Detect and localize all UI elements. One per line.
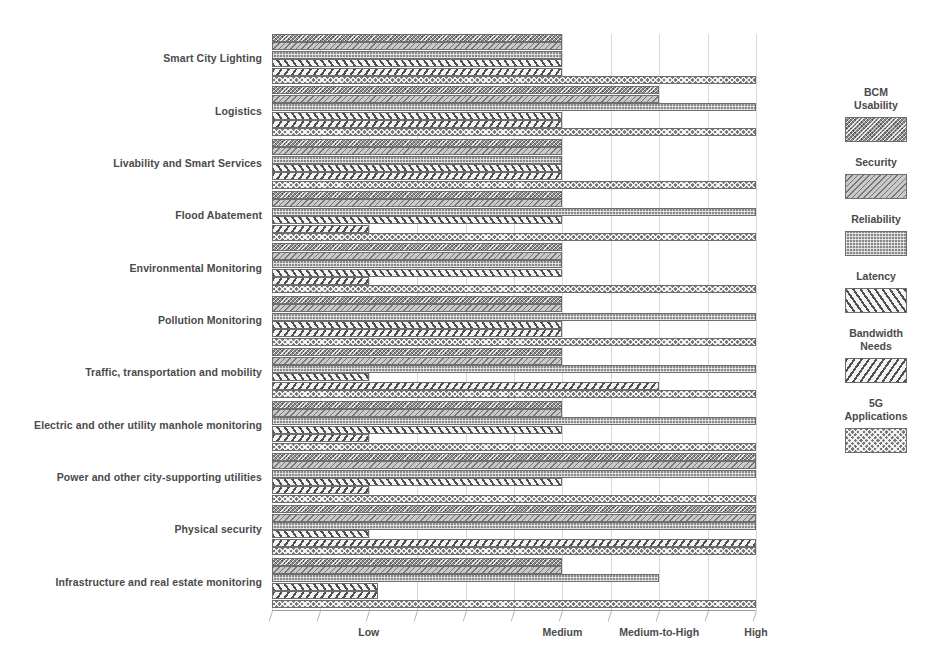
bar — [272, 470, 756, 478]
bar — [272, 243, 562, 251]
category-label: Environmental Monitoring — [0, 262, 262, 274]
bar — [272, 417, 756, 425]
category-label: Electric and other utility manhole monit… — [0, 419, 262, 431]
bar — [272, 304, 562, 312]
x-axis-tick-label: Low — [358, 626, 379, 638]
bar — [272, 164, 562, 172]
x-axis-tick — [414, 611, 418, 622]
bar — [272, 338, 756, 346]
bar — [272, 530, 369, 538]
legend-item-label: Bandwidth Needs — [824, 327, 928, 353]
x-axis-tick — [607, 611, 611, 622]
bar — [272, 547, 756, 555]
bar — [272, 583, 378, 591]
bar — [272, 373, 369, 381]
bar — [272, 277, 369, 285]
bar — [272, 260, 562, 268]
x-axis-tick — [365, 611, 369, 622]
legend-swatch — [845, 174, 907, 199]
bar — [272, 443, 756, 451]
bar — [272, 426, 562, 434]
category-label: Power and other city-supporting utilitie… — [0, 471, 262, 483]
category-label: Physical security — [0, 523, 262, 535]
category-label: Livability and Smart Services — [0, 157, 262, 169]
bar — [272, 539, 756, 547]
bar — [272, 296, 562, 304]
category-label: Traffic, transportation and mobility — [0, 366, 262, 378]
bar — [272, 51, 562, 59]
bar — [272, 147, 562, 155]
legend-item[interactable]: 5G Applications — [824, 397, 928, 453]
bar — [272, 382, 659, 390]
legend-item[interactable]: BCM Usability — [824, 86, 928, 142]
legend-item-label: 5G Applications — [824, 397, 928, 423]
legend-swatch — [845, 428, 907, 453]
x-axis-tick — [559, 611, 563, 622]
legend-item[interactable]: Security — [824, 156, 928, 199]
bar — [272, 120, 562, 128]
bar — [272, 252, 562, 260]
bar — [272, 357, 562, 365]
legend-item[interactable]: Reliability — [824, 213, 928, 256]
gridline — [756, 34, 757, 610]
bar — [272, 86, 659, 94]
legend-item-label: Latency — [824, 270, 928, 283]
bar — [272, 103, 756, 111]
bar — [272, 285, 756, 293]
x-axis-tick — [753, 611, 757, 622]
y-axis-category-labels: Smart City LightingLogisticsLivability a… — [0, 0, 262, 672]
bar — [272, 233, 756, 241]
legend-item-label: Security — [824, 156, 928, 169]
bar — [272, 313, 756, 321]
category-label: Infrastructure and real estate monitorin… — [0, 576, 262, 588]
x-axis-tick-label: Medium — [543, 626, 583, 638]
bar — [272, 514, 756, 522]
bar — [272, 128, 756, 136]
legend-swatch — [845, 288, 907, 313]
category-label: Logistics — [0, 105, 262, 117]
bar — [272, 321, 562, 329]
bar — [272, 191, 562, 199]
x-axis-tick — [269, 611, 273, 622]
bar — [272, 453, 756, 461]
category-label: Smart City Lighting — [0, 52, 262, 64]
legend-item[interactable]: Bandwidth Needs — [824, 327, 928, 383]
bar — [272, 434, 369, 442]
bar — [272, 68, 562, 76]
category-label: Flood Abatement — [0, 209, 262, 221]
bar — [272, 269, 562, 277]
bar — [272, 486, 369, 494]
bar — [272, 348, 562, 356]
legend-swatch — [845, 231, 907, 256]
x-axis-tick — [462, 611, 466, 622]
bar — [272, 558, 562, 566]
bar — [272, 505, 756, 513]
bar — [272, 522, 756, 530]
grouped-bar-chart: Smart City LightingLogisticsLivability a… — [0, 0, 934, 672]
bar — [272, 172, 562, 180]
bar — [272, 34, 562, 42]
bar — [272, 59, 562, 67]
bar — [272, 365, 756, 373]
bar — [272, 591, 378, 599]
bar — [272, 156, 562, 164]
bar — [272, 329, 562, 337]
bar — [272, 95, 659, 103]
legend-item-label: BCM Usability — [824, 86, 928, 112]
x-axis-tick — [511, 611, 515, 622]
x-axis-tick — [704, 611, 708, 622]
bar — [272, 225, 369, 233]
legend-item-label: Reliability — [824, 213, 928, 226]
x-axis-tick-label: High — [744, 626, 767, 638]
bar — [272, 478, 562, 486]
bar — [272, 208, 756, 216]
bar — [272, 139, 562, 147]
bar — [272, 199, 562, 207]
legend-item[interactable]: Latency — [824, 270, 928, 313]
legend-swatch — [845, 117, 907, 142]
bar — [272, 495, 756, 503]
category-label: Pollution Monitoring — [0, 314, 262, 326]
x-axis-tick — [317, 611, 321, 622]
bar — [272, 112, 562, 120]
x-axis-tick — [656, 611, 660, 622]
